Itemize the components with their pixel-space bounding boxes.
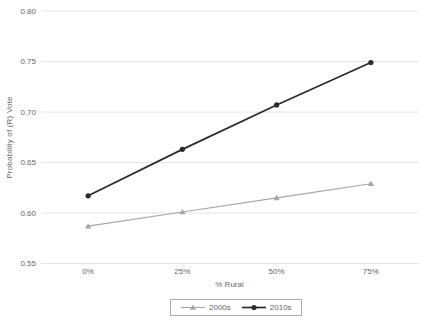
x-axis-title: % Rural [41,280,418,289]
legend-entry-2000s: 2000s [180,303,231,312]
plot-area: 0.550.600.650.700.750.800%25%50%75% [0,0,422,325]
circle-marker-icon [241,303,267,312]
svg-text:0%: 0% [82,267,94,276]
svg-text:0.80: 0.80 [20,7,36,16]
svg-text:50%: 50% [269,267,285,276]
legend-label-2000s: 2000s [209,303,231,312]
triangle-marker-icon [180,303,206,312]
svg-text:0.70: 0.70 [20,108,36,117]
legend: 2000s 2010s [170,299,302,316]
legend-label-2010s: 2010s [270,303,292,312]
legend-entry-2010s: 2010s [241,303,292,312]
svg-text:0.60: 0.60 [20,209,36,218]
svg-text:0.55: 0.55 [20,259,36,268]
svg-text:0.65: 0.65 [20,158,36,167]
svg-text:0.75: 0.75 [20,57,36,66]
svg-text:25%: 25% [174,267,190,276]
svg-text:75%: 75% [363,267,379,276]
line-chart: 0.550.600.650.700.750.800%25%50%75% Prob… [0,0,422,325]
y-axis-title: Probability of (R) Vote [5,63,14,213]
